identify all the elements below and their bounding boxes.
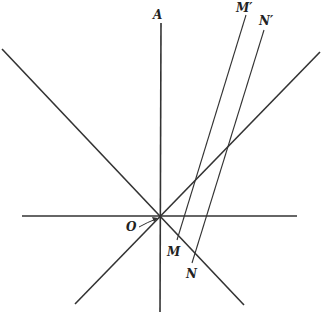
line-m-mprime: [177, 15, 246, 240]
label-m: M: [166, 245, 181, 259]
diagonal-up-line: [75, 52, 320, 304]
label-m-prime: M′: [235, 1, 253, 15]
label-a: A: [152, 8, 162, 22]
label-n-prime: N′: [258, 14, 274, 28]
label-o: O: [126, 220, 137, 234]
diagram-canvas: A O M N M′ N′: [0, 0, 323, 318]
line-n-nprime: [192, 30, 264, 263]
diagonal-down-line: [2, 49, 244, 305]
vertical-axis-line: [160, 23, 161, 312]
label-n: N: [185, 267, 198, 281]
diagram-svg: A O M N M′ N′: [0, 0, 323, 318]
